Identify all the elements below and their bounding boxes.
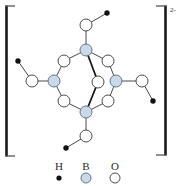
hydrogen-atom-icon [63,145,68,150]
legend-oxygen-circle-icon [110,173,120,183]
borate-ion-structure-diagram: 2- H B O [0,0,180,186]
boron-atom-icon [80,44,92,56]
oxygen-atom-icon [58,95,70,107]
oxygen-atom-icon [58,55,70,67]
hydrogen-atom-icon [15,58,20,63]
boron-atom-icon [48,75,60,87]
boron-atom-icon [110,75,122,87]
legend: H B O [55,160,120,184]
left-bracket [6,6,16,157]
right-bracket [156,6,167,156]
legend-label-oxygen: O [111,160,119,172]
legend-label-hydrogen: H [55,160,63,172]
legend-boron-circle-icon [81,173,91,183]
oxygen-atom-icon [26,75,38,87]
oxygen-atom-icon [102,95,114,107]
oxygen-atom-icon [92,76,104,88]
legend-label-boron: B [82,160,89,172]
oxygen-atom-icon [80,19,92,31]
oxygen-atom-icon [102,55,114,67]
oxygen-atom-icon [80,130,92,142]
oxygen-atom-icon [136,75,148,87]
boron-atom-icon [80,106,92,118]
hydrogen-atom-icon [150,98,155,103]
hydrogen-atom-icon [104,10,109,15]
charge-label: 2- [170,6,177,14]
legend-hydrogen-dot-icon [56,175,61,180]
